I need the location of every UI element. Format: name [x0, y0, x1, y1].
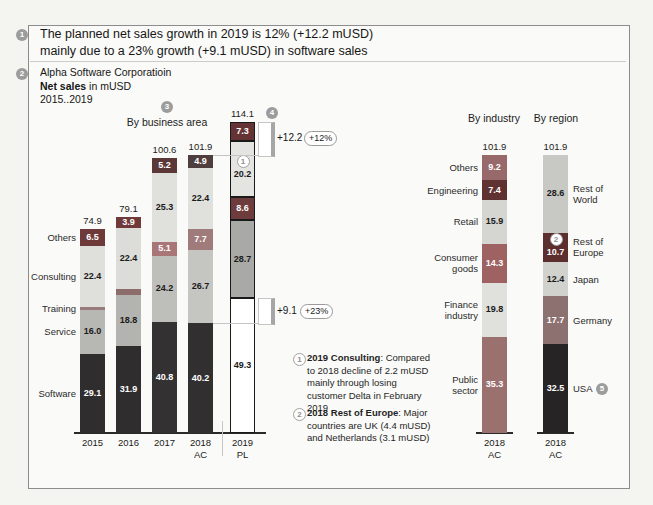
footnote-2-text: 2018 Rest of Europe: Major countries are…	[307, 407, 431, 445]
segment-value-others-2016: 3.9	[116, 217, 141, 228]
segment-value-software-2018-ac: 40.2	[188, 373, 213, 384]
growth-bracket-software	[258, 298, 275, 325]
growth-value-total: +12.2	[277, 132, 302, 143]
series-label-training: Training	[10, 303, 76, 314]
footnote-1-text: 2019 Consulting: Compared to 2018 declin…	[307, 352, 431, 415]
growth-value-software: +9.1	[277, 305, 297, 316]
footnote-rest-of-europe: 2 2018 Rest of Europe: Major countries a…	[293, 407, 431, 445]
series-label-consulting: Consulting	[10, 271, 76, 282]
segment-badge-consulting: 1	[237, 155, 250, 168]
segment-value-retail-2018-ac: 15.9	[482, 216, 507, 227]
segment-value-training-2019-pl: 8.6	[230, 203, 255, 214]
header-period: 2015..2019	[40, 93, 93, 105]
series-label-engineering: Engineering	[398, 185, 478, 196]
segment-value-training-2018-ac: 7.7	[188, 234, 213, 245]
chart-title-by-region: By region	[486, 112, 626, 124]
segment-value-others-2018-ac: 9.2	[482, 162, 507, 173]
series-label-consumer-goods: Consumergoods	[398, 252, 478, 274]
series-label-software: Software	[10, 388, 76, 399]
category-label-2018-ac: 2018AC	[473, 437, 517, 461]
category-label-2018-ac: 2018AC	[534, 437, 578, 461]
segment-value-consulting-2019-pl: 20.2	[230, 169, 255, 180]
segment-value-others-2019-pl: 7.3	[230, 126, 255, 137]
total-label-2018-ac: 101.9	[534, 141, 578, 152]
footnote-consulting: 1 2019 Consulting: Compared to 2018 decl…	[293, 352, 431, 415]
chart-header: Alpha Software Corporatioin Net sales in…	[40, 66, 280, 107]
footnote-badge-2: 2	[293, 408, 306, 421]
growth-pct-pill-software: +23%	[300, 304, 333, 319]
segment-value-others-2018-ac: 4.9	[188, 156, 213, 167]
series-label-service: Service	[10, 326, 76, 337]
bar-segment-training-2015	[80, 307, 105, 309]
total-label-2018-ac: 101.9	[179, 141, 223, 152]
segment-value-service-2017: 24.2	[152, 283, 177, 294]
segment-value-service-2015: 16.0	[80, 326, 105, 337]
segment-value-rest-of-world-2018-ac: 28.6	[543, 188, 568, 199]
segment-value-service-2016: 18.8	[116, 315, 141, 326]
total-label-2018-ac: 101.9	[473, 141, 517, 152]
header-company: Alpha Software Corporatioin	[40, 66, 171, 78]
segment-value-others-2015: 6.5	[80, 232, 105, 243]
series-label-germany: Germany	[573, 315, 628, 326]
bar-segment-training-2016	[116, 289, 141, 295]
series-label-retail: Retail	[398, 216, 478, 227]
segment-value-service-2019-pl: 28.7	[230, 254, 255, 265]
segment-value-germany-2018-ac: 17.7	[543, 315, 568, 326]
segment-value-training-2017: 5.1	[152, 243, 177, 254]
total-label-2016: 79.1	[107, 203, 151, 214]
segment-badge-rest-of-europe: 2	[550, 233, 563, 246]
segment-value-software-2015: 29.1	[80, 388, 105, 399]
series-label-japan: Japan	[573, 274, 628, 285]
key-message-line2: mainly due to a 23% growth (+9.1 mUSD) i…	[40, 44, 368, 58]
segment-value-finance-industry-2018-ac: 19.8	[482, 304, 507, 315]
segment-value-consulting-2015: 22.4	[80, 271, 105, 282]
header-metric-bold: Net sales	[40, 80, 86, 92]
segment-value-engineering-2018-ac: 7.4	[482, 185, 507, 196]
key-message: The planned net sales growth in 2019 is …	[40, 26, 600, 60]
growth-bracket-total	[258, 122, 275, 157]
series-label-rest-of-world: Rest ofWorld	[573, 183, 628, 205]
segment-value-others-2017: 5.2	[152, 160, 177, 171]
series-label-badge-usa: 5	[596, 383, 608, 395]
chart-title-badge: 3	[161, 101, 173, 113]
segment-value-service-2018-ac: 26.7	[188, 281, 213, 292]
series-label-finance-industry: Financeindustry	[398, 299, 478, 321]
header-metric-unit: in mUSD	[86, 80, 131, 92]
chart-title-by-business-area: By business area	[97, 116, 237, 128]
segment-value-rest-of-europe-2018-ac: 10.7	[543, 247, 568, 258]
segment-value-software-2019-pl: 49.3	[230, 360, 255, 371]
series-label-rest-of-europe: Rest ofEurope	[573, 236, 628, 258]
series-label-others: Others	[10, 232, 76, 243]
segment-value-software-2017: 40.8	[152, 372, 177, 383]
segment-value-consulting-2017: 25.3	[152, 202, 177, 213]
footnote-badge-1: 1	[293, 353, 306, 366]
category-label-2019-pl: 2019PL	[221, 437, 265, 461]
header-badge: 2	[16, 68, 28, 80]
connector-software-level	[213, 323, 258, 324]
segment-value-consulting-2016: 22.4	[116, 253, 141, 264]
growth-pct-pill-total: +12%	[304, 131, 337, 146]
actual-plan-separator	[222, 421, 223, 456]
key-message-line1: The planned net sales growth in 2019 is …	[40, 27, 373, 41]
message-badge: 1	[16, 29, 28, 41]
segment-value-consulting-2018-ac: 22.4	[188, 193, 213, 204]
series-label-others: Others	[398, 162, 478, 173]
connector-total-level	[213, 155, 258, 156]
total-badge: 4	[266, 107, 278, 119]
total-label-2015: 74.9	[71, 215, 115, 226]
message-separator	[30, 61, 626, 62]
total-label-2019-pl: 114.1	[221, 108, 265, 119]
segment-value-usa-2018-ac: 32.5	[543, 383, 568, 394]
category-label-2018-ac: 2018AC	[179, 437, 223, 461]
segment-value-japan-2018-ac: 12.4	[543, 274, 568, 285]
segment-value-consumer-goods-2018-ac: 14.3	[482, 258, 507, 269]
segment-value-software-2016: 31.9	[116, 384, 141, 395]
segment-value-public-sector-2018-ac: 35.3	[482, 379, 507, 390]
